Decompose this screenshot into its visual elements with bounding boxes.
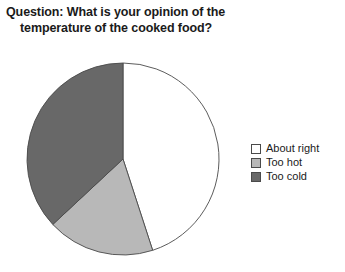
chart-title: Question: What is your opinion of the te…: [6, 4, 286, 36]
pie-chart-area: [26, 61, 222, 259]
legend-item-label: About right: [266, 142, 319, 155]
legend-item-label: Too cold: [266, 170, 307, 183]
chart-title-line-2: temperature of the cooked food?: [6, 20, 286, 36]
legend-item[interactable]: Too cold: [251, 170, 343, 183]
legend-item[interactable]: About right: [251, 142, 343, 155]
legend-swatch-icon: [251, 172, 261, 182]
legend-item[interactable]: Too hot: [251, 156, 343, 169]
pie-slice-group: [27, 63, 219, 255]
chart-title-line-1: Question: What is your opinion of the: [6, 5, 225, 19]
pie-chart-svg: [26, 61, 222, 259]
legend-swatch-icon: [251, 158, 261, 168]
legend-item-label: Too hot: [266, 156, 302, 169]
chart-legend: About rightToo hotToo cold: [251, 142, 343, 184]
chart-figure: Question: What is your opinion of the te…: [0, 0, 345, 272]
legend-swatch-icon: [251, 144, 261, 154]
